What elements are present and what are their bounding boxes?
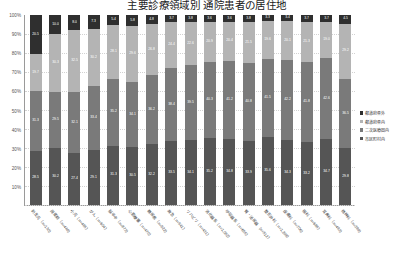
x-label-slot: 救急（n=541） bbox=[161, 207, 180, 265]
legend-swatch-icon bbox=[360, 128, 363, 131]
legend-item[interactable]: 二次医療圏内 bbox=[360, 127, 414, 133]
bar-value-label: 29.5 bbox=[52, 118, 59, 121]
plot-area: 20.519.731.328.510.030.329.530.28.032.53… bbox=[24, 15, 355, 206]
bar-value-label: 41.8 bbox=[303, 100, 310, 103]
bar-value-label: 35.2 bbox=[110, 110, 117, 113]
y-axis-tick: 60% bbox=[12, 89, 21, 94]
stacked-bar[interactable]: 3.620.940.335.2 bbox=[204, 15, 216, 205]
stacked-bar[interactable]: 3.724.438.433.5 bbox=[165, 15, 177, 205]
bar-value-label: 29.2 bbox=[342, 50, 349, 53]
bar-value-label: 20.4 bbox=[226, 39, 233, 42]
bar-value-label: 20.5 bbox=[32, 33, 39, 36]
bar-value-label: 5.8 bbox=[130, 19, 135, 22]
bar-slot: 3.821.540.833.9 bbox=[239, 15, 258, 205]
stacked-bar[interactable]: 8.032.532.127.4 bbox=[68, 15, 80, 205]
bar-value-label: 3.4 bbox=[285, 17, 290, 20]
x-label-slot: 新生児（n=130） bbox=[25, 207, 44, 265]
stacked-bar[interactable]: 4.826.836.232.2 bbox=[146, 15, 158, 205]
bar-segment: 20.1 bbox=[281, 21, 293, 59]
x-label-slot: 整形外科（n=1,208） bbox=[258, 207, 277, 265]
bar-value-label: 38.4 bbox=[168, 103, 175, 106]
bar-segment: 19.6 bbox=[262, 21, 274, 58]
bar-segment: 35.2 bbox=[204, 138, 216, 205]
bar-value-label: 7.3 bbox=[91, 20, 96, 23]
legend-item[interactable]: 市区町村内 bbox=[360, 136, 414, 142]
bar-segment: 5.4 bbox=[107, 15, 119, 25]
bar-segment: 20.4 bbox=[223, 22, 235, 61]
bar-segment: 3.8 bbox=[243, 15, 255, 22]
bar-segment: 32.5 bbox=[68, 30, 80, 92]
bar-slot: 3.822.639.534.1 bbox=[181, 15, 200, 205]
bar-value-label: 3.7 bbox=[324, 17, 329, 20]
stacked-bar[interactable]: 10.030.329.530.2 bbox=[49, 15, 61, 205]
bar-slot: 8.032.532.127.4 bbox=[65, 15, 84, 205]
page-title: 主要診療領域別 通院患者の居住地 bbox=[0, 0, 414, 12]
stacked-bar[interactable]: 4.529.236.529.8 bbox=[339, 15, 351, 205]
bar-value-label: 19.0 bbox=[323, 38, 330, 41]
bar-segment: 29.5 bbox=[49, 92, 61, 148]
x-label-slot: リハビリ（n=431） bbox=[180, 207, 199, 265]
legend: 都道府県外都道府県内二次医療圏内市区町村内 bbox=[360, 110, 414, 142]
bar-segment: 27.4 bbox=[68, 153, 80, 205]
stacked-bar[interactable]: 3.620.441.234.8 bbox=[223, 15, 235, 205]
x-label-slot: 腎・泌尿器（n=512） bbox=[238, 207, 257, 265]
legend-label: 都道府県内 bbox=[365, 119, 385, 125]
x-label-slot: 皮膚科（n=706） bbox=[277, 207, 296, 265]
bar-segment: 3.7 bbox=[165, 15, 177, 22]
bar-slot: 4.826.836.232.2 bbox=[142, 15, 161, 205]
bar-segment: 3.8 bbox=[185, 15, 197, 22]
stacked-bar[interactable]: 5.428.135.231.3 bbox=[107, 15, 119, 205]
bar-segment: 36.5 bbox=[339, 79, 351, 148]
legend-item[interactable]: 都道府県内 bbox=[360, 119, 414, 125]
stacked-bar[interactable]: 3.822.639.534.1 bbox=[185, 15, 197, 205]
bar-segment: 30.5 bbox=[126, 147, 138, 205]
x-label-slot: 精神科（n=389） bbox=[336, 207, 355, 265]
bar-value-label: 27.4 bbox=[71, 177, 78, 180]
bar-segment: 34.1 bbox=[185, 140, 197, 205]
bar-group: 20.519.731.328.510.030.329.530.28.032.53… bbox=[26, 15, 355, 205]
bar-value-label: 5.4 bbox=[111, 18, 116, 21]
bar-slot: 3.620.940.335.2 bbox=[200, 15, 219, 205]
x-label-slot: 眼科（n=688） bbox=[297, 207, 316, 265]
x-label-slot: 周産期（n=448） bbox=[44, 207, 63, 265]
bar-segment: 29.2 bbox=[339, 24, 351, 79]
legend-label: 二次医療圏内 bbox=[365, 127, 389, 133]
bar-slot: 3.719.042.634.7 bbox=[316, 15, 335, 205]
bar-segment: 41.8 bbox=[301, 62, 313, 141]
stacked-bar[interactable]: 3.721.341.833.2 bbox=[301, 15, 313, 205]
bar-value-label: 31.3 bbox=[110, 174, 117, 177]
bar-value-label: 24.4 bbox=[168, 43, 175, 46]
bar-value-label: 34.1 bbox=[187, 171, 194, 174]
stacked-bar[interactable]: 3.420.142.234.3 bbox=[281, 15, 293, 205]
bar-value-label: 42.2 bbox=[284, 98, 291, 101]
bar-segment: 26.8 bbox=[146, 24, 158, 75]
stacked-bar[interactable]: 3.319.641.535.6 bbox=[262, 15, 274, 205]
bar-value-label: 36.5 bbox=[342, 112, 349, 115]
bar-segment: 29.6 bbox=[126, 26, 138, 82]
y-axis-tick: 10% bbox=[12, 184, 21, 189]
stacked-bar[interactable]: 3.719.042.634.7 bbox=[320, 15, 332, 205]
bar-slot: 5.829.634.130.5 bbox=[123, 15, 142, 205]
stacked-bar[interactable]: 7.330.233.429.1 bbox=[88, 15, 100, 205]
stacked-bar[interactable]: 20.519.731.328.5 bbox=[30, 15, 42, 205]
bar-value-label: 4.5 bbox=[343, 18, 348, 21]
stacked-bar[interactable]: 5.829.634.130.5 bbox=[126, 15, 138, 205]
bar-segment: 3.7 bbox=[301, 15, 313, 22]
bar-value-label: 32.1 bbox=[71, 121, 78, 124]
bar-segment: 33.2 bbox=[301, 142, 313, 205]
bar-segment: 39.5 bbox=[185, 65, 197, 140]
bar-segment: 24.4 bbox=[165, 22, 177, 68]
bar-slot: 4.529.236.529.8 bbox=[336, 15, 355, 205]
bar-segment: 34.3 bbox=[281, 140, 293, 205]
bar-segment: 36.2 bbox=[146, 75, 158, 144]
stacked-bar-chart: 主要診療領域別 通院患者の居住地 10%20%30%40%50%60%70%80… bbox=[0, 0, 414, 265]
legend-item[interactable]: 都道府県外 bbox=[360, 110, 414, 116]
bar-segment: 41.2 bbox=[223, 61, 235, 139]
y-axis-tick: 70% bbox=[12, 70, 21, 75]
bar-value-label: 34.1 bbox=[129, 113, 136, 116]
bar-segment: 19.7 bbox=[30, 54, 42, 91]
bar-segment: 31.3 bbox=[107, 146, 119, 205]
stacked-bar[interactable]: 3.821.540.833.9 bbox=[243, 15, 255, 205]
x-label-slot: 糖尿病（n=522） bbox=[141, 207, 160, 265]
bar-segment: 30.3 bbox=[49, 34, 61, 92]
